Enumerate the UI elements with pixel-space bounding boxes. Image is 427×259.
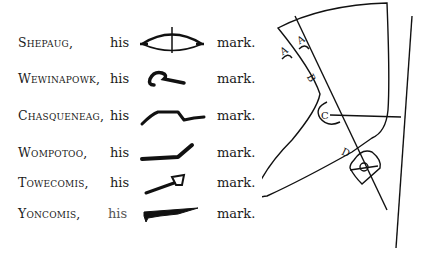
mark-label: mark. [217,106,255,126]
outer-outline [262,3,389,200]
zigzag-line-icon [138,100,206,130]
club-icon [138,198,206,228]
signer-name: Yoncomis, [18,204,80,224]
diagonal-line [295,16,387,210]
his-label: his [110,143,129,163]
signer-name: Towecomis, [18,173,89,193]
bow-and-arrow-icon [138,27,206,57]
vertical-line [396,16,412,248]
his-label: his [108,204,127,224]
his-label: his [110,106,129,126]
label-b: B [305,72,318,84]
pipe-icon [138,167,206,197]
horizontal-line [330,115,401,117]
signature-row: Chasqueneag, his mark. [0,106,260,126]
signer-name: Shepaug, [18,33,73,53]
mark-label: mark. [217,204,255,224]
mark-label: mark. [217,69,255,89]
signer-name: Wewinapowk, [18,69,100,89]
signature-row: Yoncomis, his mark. [0,204,260,224]
curl-hook-icon [138,63,206,93]
anatomical-diagram: A A B C D [262,0,427,259]
signature-row: Shepaug, his mark. [0,33,260,53]
mark-label: mark. [217,173,255,193]
his-label: his [110,173,129,193]
his-label: his [110,69,129,89]
bent-line-icon [138,137,206,167]
his-label: his [110,33,129,53]
signature-row: Wewinapowk, his mark. [0,69,260,89]
signature-row: Wompotoo, his mark. [0,143,260,163]
signature-row: Towecomis, his mark. [0,173,260,193]
signer-name: Chasqueneag, [18,106,104,126]
mark-label: mark. [217,143,255,163]
mark-label: mark. [217,33,255,53]
label-c: C [321,110,329,121]
signer-name: Wompotoo, [18,143,87,163]
